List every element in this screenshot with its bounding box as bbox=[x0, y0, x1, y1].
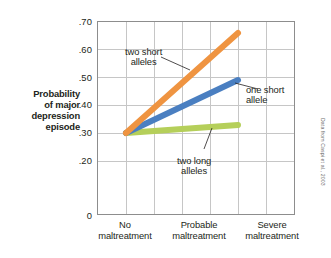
source-credit: Data from Caspi et al., 2003 bbox=[320, 118, 326, 204]
x-tick-label-severe-maltreatment-line-1: Severe bbox=[235, 220, 309, 231]
y-tick-label-70: .70 bbox=[66, 17, 92, 26]
series-label-two-long-alleles-line-2: alleles bbox=[177, 166, 211, 176]
y-tick-label-50: .50 bbox=[66, 73, 92, 82]
series-label-two-short-alleles: two short alleles bbox=[125, 47, 162, 68]
series-label-two-long-alleles: two long alleles bbox=[177, 156, 211, 177]
leader-line-two-short-alleles bbox=[161, 57, 190, 70]
y-axis-title-line-1: Probability bbox=[2, 88, 80, 99]
y-tick-label-40: .40 bbox=[66, 100, 92, 109]
leader-line-two-long-alleles bbox=[204, 128, 212, 149]
x-tick-label-severe-maltreatment: Severe maltreatment bbox=[235, 220, 309, 241]
series-label-one-short-allele-line-2: allele bbox=[246, 95, 284, 105]
y-axis-title-line-3: depression bbox=[2, 110, 80, 121]
x-tick-label-severe-maltreatment-line-2: maltreatment bbox=[235, 231, 309, 242]
y-tick-label-20: .20 bbox=[66, 156, 92, 165]
chart-figure: Probability of major depression episode … bbox=[0, 0, 331, 258]
x-tick-label-probable-maltreatment-line-1: Probable bbox=[162, 220, 236, 231]
y-tick-label-30: .30 bbox=[66, 128, 92, 137]
x-tick-label-no-maltreatment-line-2: maltreatment bbox=[88, 231, 162, 242]
x-tick-label-no-maltreatment: No maltreatment bbox=[88, 220, 162, 241]
y-axis-title: Probability of major depression episode bbox=[2, 88, 80, 132]
x-tick-label-no-maltreatment-line-1: No bbox=[88, 220, 162, 231]
y-tick-label-0: 0 bbox=[66, 211, 92, 220]
series-label-one-short-allele: one short allele bbox=[246, 85, 284, 106]
x-tick-label-probable-maltreatment: Probable maltreatment bbox=[162, 220, 236, 241]
x-tick-label-probable-maltreatment-line-2: maltreatment bbox=[162, 231, 236, 242]
y-tick-label-60: .60 bbox=[66, 45, 92, 54]
series-label-two-short-alleles-line-2: alleles bbox=[125, 57, 162, 67]
